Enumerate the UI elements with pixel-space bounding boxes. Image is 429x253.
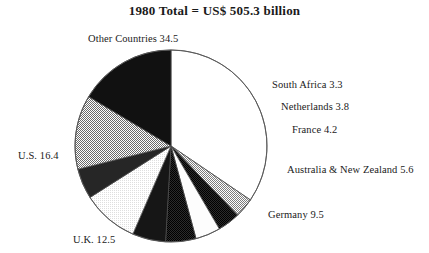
pie-label-us: U.S. 16.4 — [18, 150, 59, 162]
pie-label-south-africa: South Africa 3.3 — [272, 79, 343, 91]
pie-label-uk: U.K. 12.5 — [73, 234, 115, 246]
pie-label-other-countries: Other Countries 34.5 — [88, 33, 178, 45]
pie-slice-group — [75, 50, 267, 242]
pie-chart-figure: 1980 Total = US$ 505.3 billion — [0, 0, 429, 253]
pie-label-netherlands: Netherlands 3.8 — [281, 101, 349, 113]
pie-label-australia-new-zealand: Australia & New Zealand 5.6 — [287, 164, 414, 176]
pie-label-france: France 4.2 — [292, 124, 337, 136]
pie-label-germany: Germany 9.5 — [268, 209, 324, 221]
pie-chart-svg — [0, 0, 429, 253]
